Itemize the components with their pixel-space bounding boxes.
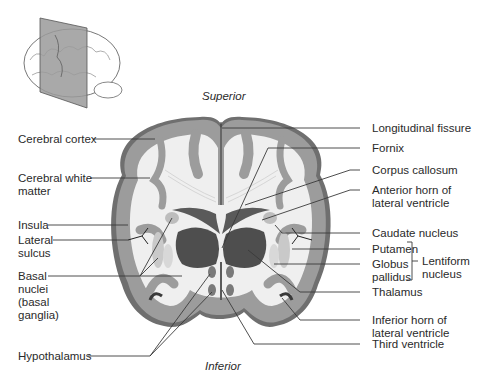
- label-line: lateral ventricle: [372, 197, 451, 210]
- label-line: ganglia): [18, 309, 59, 322]
- label-line: Globus: [372, 258, 411, 271]
- label-line: (basal: [18, 296, 59, 309]
- label-line: Inferior horn of: [372, 314, 449, 327]
- label-cerebral-cortex: Cerebral cortex: [18, 133, 97, 146]
- label-line: pallidus: [372, 271, 411, 284]
- label-basal-nuclei: Basal nuclei (basal ganglia): [18, 270, 59, 322]
- label-line: Anterior horn of: [372, 184, 451, 197]
- label-line: Lentiform: [422, 255, 470, 268]
- orientation-inferior: Inferior: [205, 360, 241, 372]
- label-line: Lateral: [18, 234, 53, 247]
- label-caudate-nucleus: Caudate nucleus: [372, 227, 458, 240]
- label-globus-pallidus: Globus pallidus: [372, 258, 411, 284]
- label-line: matter: [18, 185, 92, 198]
- inset-brain-plane-icon: [24, 18, 122, 108]
- label-third-ventricle: Third ventricle: [372, 338, 444, 351]
- label-line: sulcus: [18, 247, 53, 260]
- label-thalamus: Thalamus: [372, 286, 423, 299]
- orientation-superior: Superior: [202, 90, 245, 102]
- label-fornix: Fornix: [372, 142, 404, 155]
- label-line: Basal: [18, 270, 59, 283]
- label-putamen: Putamen: [372, 243, 418, 256]
- label-lentiform-nucleus: Lentiform nucleus: [422, 255, 470, 281]
- label-insula: Insula: [18, 219, 49, 232]
- label-line: nucleus: [422, 268, 470, 281]
- label-corpus-callosum: Corpus callosum: [372, 164, 458, 177]
- label-anterior-horn: Anterior horn of lateral ventricle: [372, 184, 451, 210]
- label-inferior-horn: Inferior horn of lateral ventricle: [372, 314, 449, 340]
- label-cerebral-white-matter: Cerebral white matter: [18, 172, 92, 198]
- label-line: nuclei: [18, 283, 59, 296]
- label-lateral-sulcus: Lateral sulcus: [18, 234, 53, 260]
- label-hypothalamus: Hypothalamus: [18, 350, 92, 363]
- label-longitudinal-fissure: Longitudinal fissure: [372, 122, 471, 135]
- label-line: Cerebral white: [18, 172, 92, 185]
